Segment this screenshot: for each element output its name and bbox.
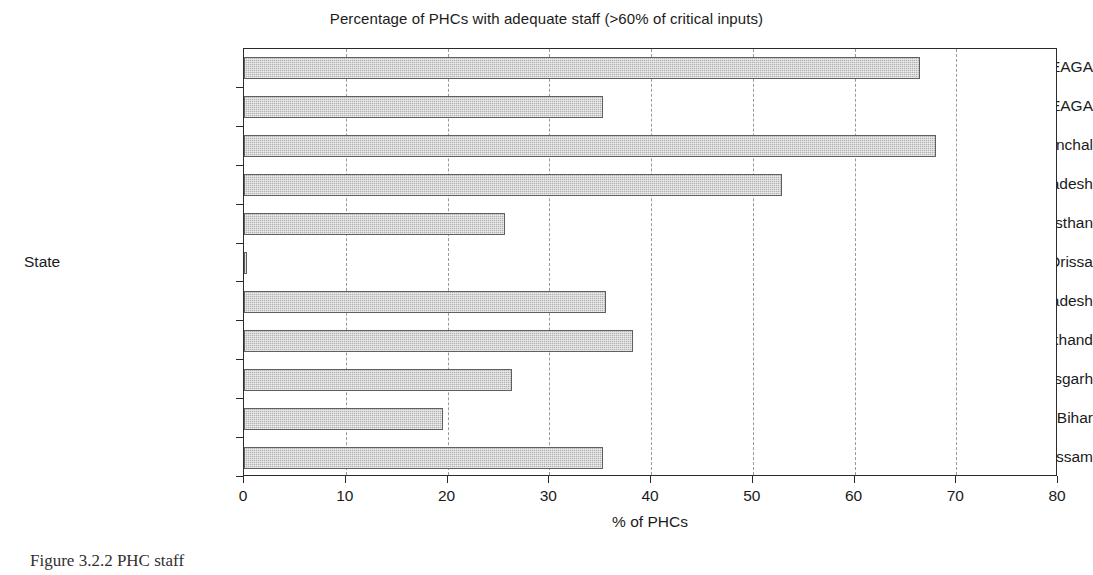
y-tick-mark: [236, 398, 243, 399]
x-tick-label: 0: [213, 487, 273, 505]
bar[interactable]: [244, 57, 920, 79]
bar-row: [244, 135, 1056, 157]
bars-layer: [244, 49, 1056, 475]
x-tick-label: 60: [824, 487, 884, 505]
bar-row: [244, 96, 1056, 118]
y-axis-title: State: [24, 253, 60, 271]
bar[interactable]: [244, 291, 606, 313]
bar[interactable]: [244, 96, 603, 118]
y-tick-mark: [236, 204, 243, 205]
bar-row: [244, 291, 1056, 313]
bar[interactable]: [244, 252, 247, 274]
x-tick-label: 70: [925, 487, 985, 505]
y-tick-mark: [236, 359, 243, 360]
y-tick-mark: [236, 87, 243, 88]
y-tick-mark: [236, 165, 243, 166]
bar-row: [244, 447, 1056, 469]
bar-row: [244, 57, 1056, 79]
bar-row: [244, 408, 1056, 430]
x-tick-label: 30: [518, 487, 578, 505]
x-tick-mark: [752, 476, 753, 483]
bar[interactable]: [244, 369, 512, 391]
x-tick-label: 20: [417, 487, 477, 505]
bar-row: [244, 213, 1056, 235]
x-tick-mark: [243, 476, 244, 483]
y-tick-mark: [236, 281, 243, 282]
bar[interactable]: [244, 213, 505, 235]
y-tick-mark: [236, 243, 243, 244]
x-tick-label: 50: [722, 487, 782, 505]
bar[interactable]: [244, 135, 936, 157]
bar[interactable]: [244, 174, 782, 196]
bar[interactable]: [244, 330, 633, 352]
x-axis-title: % of PHCs: [243, 513, 1057, 531]
x-tick-label: 80: [1027, 487, 1087, 505]
x-tick-label: 40: [620, 487, 680, 505]
plot-area: [243, 48, 1057, 476]
x-tick-mark: [345, 476, 346, 483]
x-tick-label: 10: [315, 487, 375, 505]
x-tick-mark: [447, 476, 448, 483]
y-tick-mark: [236, 437, 243, 438]
bar[interactable]: [244, 408, 443, 430]
bar-row: [244, 252, 1056, 274]
y-tick-mark: [236, 126, 243, 127]
bar-row: [244, 369, 1056, 391]
x-tick-mark: [955, 476, 956, 483]
x-tick-mark: [650, 476, 651, 483]
bar-row: [244, 330, 1056, 352]
x-tick-mark: [548, 476, 549, 483]
bar-row: [244, 174, 1056, 196]
x-tick-mark: [1057, 476, 1058, 483]
figure-container: Percentage of PHCs with adequate staff (…: [0, 0, 1093, 575]
y-tick-mark: [236, 320, 243, 321]
y-tick-mark: [236, 476, 243, 477]
bar[interactable]: [244, 447, 603, 469]
x-tick-mark: [854, 476, 855, 483]
chart-title: Percentage of PHCs with adequate staff (…: [0, 10, 1093, 27]
figure-caption: Figure 3.2.2 PHC staff: [30, 551, 184, 571]
